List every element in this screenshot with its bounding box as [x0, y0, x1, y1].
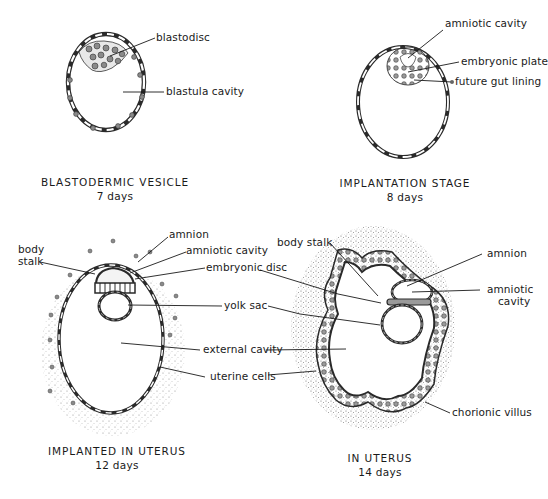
caption-subtitle: 14 days [320, 465, 440, 479]
caption-implantation-stage: IMPLANTATION STAGE 8 days [310, 176, 500, 204]
label-chorionic-villus: chorionic villus [452, 407, 532, 418]
label-yolk-sac: yolk sac [224, 300, 267, 311]
label-embryonic-disc: embryonic disc [206, 262, 287, 273]
panel-implanted-in-uterus [40, 237, 222, 436]
label-amnion: amnion [169, 229, 209, 240]
label-external-cavity: external cavity [203, 344, 283, 355]
caption-title: BLASTODERMIC VESICLE [20, 175, 210, 189]
label-amniotic-cavity: amniotic cavity [186, 245, 268, 256]
caption-in-uterus: IN UTERUS 14 days [320, 451, 440, 479]
embryonic-disc-shape [387, 299, 431, 305]
caption-implanted-in-uterus: IMPLANTED IN UTERUS 12 days [22, 444, 212, 472]
label-amniotic-cavity-line2: cavity [498, 296, 530, 307]
label-amnion: amnion [487, 248, 527, 259]
caption-subtitle: 7 days [20, 189, 210, 203]
panel-blastodermic-vesicle [68, 34, 164, 130]
label-embryonic-plate: embryonic plate [461, 56, 548, 67]
label-blastula-cavity: blastula cavity [166, 86, 244, 97]
label-body-stalk: body stalk [277, 237, 332, 248]
yolk-sac-shape [99, 292, 131, 320]
caption-subtitle: 8 days [310, 190, 500, 204]
caption-title: IN UTERUS [320, 451, 440, 465]
caption-subtitle: 12 days [22, 458, 212, 472]
label-body-stalk-line1: body [18, 244, 44, 255]
label-amniotic-cavity: amniotic cavity [445, 18, 527, 29]
label-uterine-cells: uterine cells [210, 371, 276, 382]
caption-title: IMPLANTED IN UTERUS [22, 444, 212, 458]
caption-blastodermic-vesicle: BLASTODERMIC VESICLE 7 days [20, 175, 210, 203]
label-body-stalk-line2: stalk [18, 256, 44, 267]
caption-title: IMPLANTATION STAGE [310, 176, 500, 190]
label-future-gut-lining: future gut lining [455, 76, 541, 87]
panel-in-uterus [260, 226, 482, 430]
label-blastodisc: blastodisc [156, 32, 210, 43]
label-amniotic-cavity-line1: amniotic [487, 284, 533, 295]
panel-implantation-stage [358, 30, 459, 157]
